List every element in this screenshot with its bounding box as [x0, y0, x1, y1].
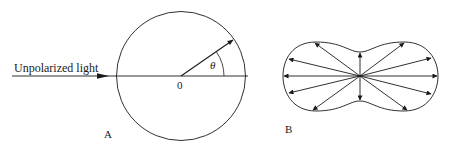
theta-angle-arc — [217, 52, 225, 76]
arrow-lower-right-a — [360, 76, 431, 94]
polarization-vector-arrow — [181, 40, 233, 76]
radiation-arrows — [284, 43, 437, 110]
arrow-upper-right-b — [360, 58, 431, 76]
arrow-lower-left-b — [313, 76, 360, 110]
figure-a-label: A — [104, 129, 112, 140]
incoming-light-label: Unpolarized light — [14, 62, 98, 74]
origin-label: 0 — [177, 80, 183, 91]
arrow-lower-left-a — [289, 76, 360, 93]
incident-arrowhead-icon — [97, 73, 109, 79]
theta-label: θ — [210, 60, 215, 71]
figure-a — [12, 12, 248, 141]
figure-b-label: B — [285, 124, 292, 135]
arrow-upper-left-b — [289, 59, 360, 76]
arrow-lower-right-b — [360, 76, 407, 110]
arrow-upper-right-a — [360, 43, 404, 76]
figure-b — [283, 42, 438, 111]
